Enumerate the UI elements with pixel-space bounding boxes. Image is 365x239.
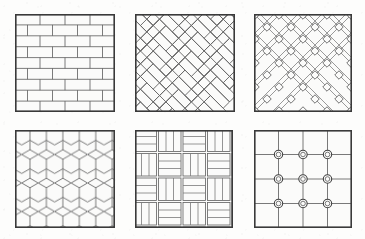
hexagon-honeycomb-drawing <box>15 130 115 228</box>
swatch-diagonal-lattice <box>254 14 352 112</box>
hexagon-cells <box>15 130 115 228</box>
herringbone-drawing <box>135 14 235 112</box>
basketweave-drawing <box>135 130 233 228</box>
swatch-grid-with-studs <box>254 130 352 228</box>
grid-studs-drawing <box>254 130 352 228</box>
swatch-hexagon-honeycomb <box>15 130 115 228</box>
swatch-running-bond-brick <box>15 14 115 112</box>
swatch-herringbone <box>135 14 235 112</box>
basketweave-blocks <box>135 130 233 228</box>
swatch-basketweave <box>135 130 233 228</box>
running-bond-brick-drawing <box>15 14 115 112</box>
pattern-sheet <box>0 0 365 239</box>
diagonal-lattice-drawing <box>254 14 352 112</box>
